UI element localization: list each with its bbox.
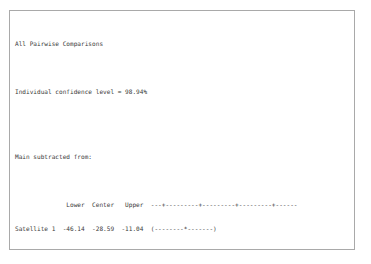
confidence-level-line: Individual confidence level = 98.94%	[15, 88, 301, 96]
block-heading: Main subtracted from:	[15, 153, 301, 161]
spacer	[15, 177, 301, 185]
data-line-b1r1: Satellite 2 -30.83 -13.28 4.27 (-------*…	[15, 249, 235, 250]
data-line-b1r0: Satellite 1 -46.14 -28.59 -11.04 (------…	[15, 225, 217, 232]
table-row: Satellite 1 -46.14 -28.59 -11.04 (------…	[15, 225, 301, 233]
table-row: Satellite 2 -30.83 -13.28 4.27 (-------*…	[15, 249, 301, 250]
report-text: All Pairwise Comparisons Individual conf…	[15, 16, 301, 250]
spacer	[15, 64, 301, 72]
spacer	[15, 113, 301, 121]
report-title: All Pairwise Comparisons	[15, 40, 301, 48]
header-line-block1: Lower Center Upper ---+---------+-------…	[15, 201, 298, 208]
table-header-row: Lower Center Upper ---+---------+-------…	[15, 201, 301, 209]
pairwise-comparisons-panel: All Pairwise Comparisons Individual conf…	[9, 10, 355, 250]
